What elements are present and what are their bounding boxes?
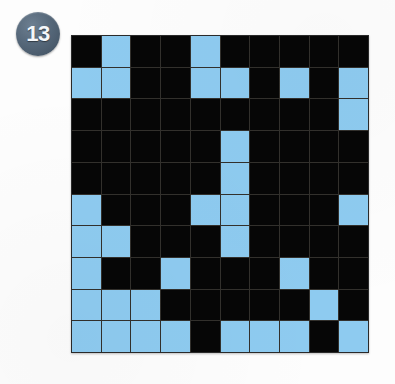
grid-cell[interactable]	[250, 195, 279, 226]
grid-cell[interactable]	[310, 226, 339, 257]
grid-cell[interactable]	[310, 290, 339, 321]
grid-cell[interactable]	[310, 258, 339, 289]
grid-cell[interactable]	[280, 131, 309, 162]
grid-cell[interactable]	[191, 321, 220, 352]
grid-cell[interactable]	[250, 68, 279, 99]
grid-cell[interactable]	[339, 195, 368, 226]
grid-cell[interactable]	[131, 36, 160, 67]
grid-cell[interactable]	[161, 131, 190, 162]
grid-cell[interactable]	[102, 68, 131, 99]
grid-cell[interactable]	[280, 258, 309, 289]
grid-cell[interactable]	[161, 290, 190, 321]
grid-cell[interactable]	[72, 226, 101, 257]
grid-cell[interactable]	[102, 36, 131, 67]
grid-cell[interactable]	[131, 68, 160, 99]
grid-cell[interactable]	[72, 163, 101, 194]
grid-cell[interactable]	[339, 226, 368, 257]
grid-cell[interactable]	[221, 290, 250, 321]
grid-cell[interactable]	[131, 131, 160, 162]
grid-cell[interactable]	[102, 163, 131, 194]
grid-cell[interactable]	[161, 163, 190, 194]
grid-cell[interactable]	[250, 290, 279, 321]
grid-cell[interactable]	[221, 258, 250, 289]
grid-cell[interactable]	[339, 68, 368, 99]
grid-cell[interactable]	[161, 195, 190, 226]
grid-cell[interactable]	[250, 131, 279, 162]
grid-cell[interactable]	[339, 163, 368, 194]
grid-cell[interactable]	[339, 290, 368, 321]
grid-cell[interactable]	[102, 99, 131, 130]
grid-cell[interactable]	[131, 226, 160, 257]
grid-cell[interactable]	[131, 99, 160, 130]
grid-cell[interactable]	[191, 36, 220, 67]
grid-cell[interactable]	[131, 195, 160, 226]
grid-cell[interactable]	[280, 68, 309, 99]
grid-cell[interactable]	[310, 68, 339, 99]
grid-cell[interactable]	[191, 195, 220, 226]
grid-cell[interactable]	[310, 131, 339, 162]
grid-cell[interactable]	[102, 131, 131, 162]
grid-cell[interactable]	[72, 195, 101, 226]
grid-cell[interactable]	[310, 321, 339, 352]
grid-cell[interactable]	[161, 226, 190, 257]
grid-cell[interactable]	[310, 163, 339, 194]
grid-cell[interactable]	[131, 321, 160, 352]
grid-cell[interactable]	[131, 163, 160, 194]
grid-cell[interactable]	[310, 99, 339, 130]
grid-cell[interactable]	[191, 99, 220, 130]
grid-cell[interactable]	[250, 226, 279, 257]
grid-cell[interactable]	[280, 195, 309, 226]
grid-cell[interactable]	[161, 36, 190, 67]
grid-cell[interactable]	[280, 99, 309, 130]
grid-cell[interactable]	[221, 131, 250, 162]
grid-cell[interactable]	[72, 131, 101, 162]
grid-cell[interactable]	[102, 290, 131, 321]
grid-cell[interactable]	[339, 99, 368, 130]
grid-cell[interactable]	[280, 290, 309, 321]
grid-cell[interactable]	[221, 163, 250, 194]
grid-cell[interactable]	[221, 99, 250, 130]
grid-cell[interactable]	[250, 99, 279, 130]
grid-cell[interactable]	[339, 36, 368, 67]
grid-cell[interactable]	[72, 36, 101, 67]
grid-cell[interactable]	[161, 258, 190, 289]
grid-cell[interactable]	[339, 258, 368, 289]
grid-cell[interactable]	[221, 36, 250, 67]
grid-cell[interactable]	[102, 321, 131, 352]
grid-cell[interactable]	[221, 68, 250, 99]
grid-cell[interactable]	[102, 258, 131, 289]
grid-cell[interactable]	[72, 321, 101, 352]
grid-cell[interactable]	[72, 68, 101, 99]
grid-cell[interactable]	[310, 195, 339, 226]
grid-cell[interactable]	[191, 226, 220, 257]
grid-cell[interactable]	[221, 226, 250, 257]
grid-cell[interactable]	[102, 195, 131, 226]
grid-cell[interactable]	[102, 226, 131, 257]
grid-cell[interactable]	[161, 321, 190, 352]
grid-cell[interactable]	[72, 99, 101, 130]
grid-cell[interactable]	[339, 131, 368, 162]
grid-cell[interactable]	[221, 321, 250, 352]
grid-cell[interactable]	[161, 99, 190, 130]
grid-cell[interactable]	[250, 36, 279, 67]
grid-cell[interactable]	[161, 68, 190, 99]
grid-cell[interactable]	[191, 68, 220, 99]
grid-cell[interactable]	[221, 195, 250, 226]
grid-cell[interactable]	[72, 258, 101, 289]
grid-cell[interactable]	[250, 258, 279, 289]
grid-cell[interactable]	[131, 290, 160, 321]
grid-cell[interactable]	[191, 163, 220, 194]
grid-cell[interactable]	[280, 226, 309, 257]
grid-cell[interactable]	[280, 163, 309, 194]
grid-cell[interactable]	[339, 321, 368, 352]
grid-cell[interactable]	[280, 321, 309, 352]
grid-cell[interactable]	[250, 321, 279, 352]
grid-cell[interactable]	[131, 258, 160, 289]
grid-cell[interactable]	[250, 163, 279, 194]
puzzle-grid[interactable]	[72, 36, 368, 352]
grid-cell[interactable]	[310, 36, 339, 67]
grid-cell[interactable]	[191, 258, 220, 289]
grid-cell[interactable]	[191, 131, 220, 162]
grid-cell[interactable]	[280, 36, 309, 67]
grid-cell[interactable]	[191, 290, 220, 321]
